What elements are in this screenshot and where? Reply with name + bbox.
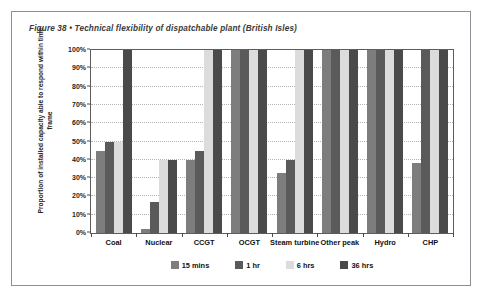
bar [114, 142, 123, 234]
bar [150, 202, 159, 233]
x-axis-label: CHP [423, 238, 439, 247]
x-tick-mark [363, 233, 364, 237]
bar [249, 50, 258, 233]
x-tick-mark [91, 233, 92, 237]
legend-label: 1 hr [246, 261, 260, 270]
y-tick-label: 100% [68, 46, 86, 53]
y-tick-label: 0% [76, 229, 86, 236]
y-axis-ticks: 0%10%20%30%40%50%60%70%80%90%100% [52, 49, 90, 234]
bar [240, 50, 249, 233]
legend-item[interactable]: 15 mins [171, 261, 210, 270]
x-axis-labels: CoalNuclearCCGTOCGTSteam turbineOther pe… [91, 238, 453, 252]
figure-frame: Figure 38 • Technical flexibility of dis… [11, 11, 471, 286]
y-tick-label: 20% [72, 192, 86, 199]
bar [376, 50, 385, 233]
y-tick-label: 70% [72, 100, 86, 107]
bar [258, 50, 267, 233]
legend-item[interactable]: 36 hrs [340, 261, 373, 270]
legend-swatch-icon [171, 261, 179, 269]
bar [286, 160, 295, 233]
y-axis-title: Proportion of installed capacity able to… [37, 28, 54, 214]
bar [159, 160, 168, 233]
legend-swatch-icon [235, 261, 243, 269]
bar-group [412, 50, 448, 233]
bar [439, 50, 448, 233]
bar [331, 50, 340, 233]
legend-item[interactable]: 1 hr [235, 261, 260, 270]
bar [105, 142, 114, 234]
bar-group [322, 50, 358, 233]
legend-label: 15 mins [182, 261, 210, 270]
x-axis-label: Steam turbine [270, 238, 319, 247]
legend-item[interactable]: 6 hrs [286, 261, 315, 270]
bar [96, 151, 105, 233]
bar [349, 50, 358, 233]
y-tick-label: 50% [72, 137, 86, 144]
bar-group [231, 50, 267, 233]
legend-label: 36 hrs [351, 261, 373, 270]
bar [204, 50, 213, 233]
bar [123, 50, 132, 233]
y-tick-label: 80% [72, 82, 86, 89]
x-tick-mark [317, 233, 318, 237]
legend-label: 6 hrs [297, 261, 315, 270]
bar [213, 50, 222, 233]
y-tick-label: 90% [72, 64, 86, 71]
x-axis-label: Nuclear [145, 238, 172, 247]
y-tick-label: 10% [72, 210, 86, 217]
y-tick-label: 40% [72, 155, 86, 162]
bar [322, 50, 331, 233]
bar-chart: Proportion of installed capacity able to… [12, 12, 472, 287]
x-tick-mark [227, 233, 228, 237]
x-axis-label: Hydro [374, 238, 395, 247]
x-tick-mark [408, 233, 409, 237]
x-tick-mark [453, 233, 454, 237]
x-tick-mark [136, 233, 137, 237]
bar [195, 151, 204, 233]
legend-swatch-icon [340, 261, 348, 269]
bar-group [186, 50, 222, 233]
bar [277, 173, 286, 233]
bar [430, 50, 439, 233]
bar-group [96, 50, 132, 233]
bars-layer [91, 50, 453, 233]
bar [186, 160, 195, 233]
bar [295, 50, 304, 233]
y-tick-label: 30% [72, 174, 86, 181]
x-axis-label: OCGT [239, 238, 260, 247]
bar [367, 50, 376, 233]
x-tick-mark [182, 233, 183, 237]
bar-group [367, 50, 403, 233]
x-axis-label: Coal [106, 238, 122, 247]
x-tick-mark [272, 233, 273, 237]
y-axis-title-text: Proportion of installed capacity able to… [37, 28, 53, 214]
bar [231, 50, 240, 233]
bar-group [141, 50, 177, 233]
y-tick-label: 60% [72, 119, 86, 126]
legend-swatch-icon [286, 261, 294, 269]
bar [394, 50, 403, 233]
bar [412, 163, 421, 233]
bar [340, 50, 349, 233]
x-axis-label: CCGT [194, 238, 215, 247]
bar [304, 50, 313, 233]
chart-legend: 15 mins1 hr6 hrs36 hrs [91, 258, 453, 272]
bar-group [277, 50, 313, 233]
bar [421, 50, 430, 233]
bar [385, 50, 394, 233]
x-axis-label: Other peak [321, 238, 360, 247]
bar [168, 160, 177, 233]
